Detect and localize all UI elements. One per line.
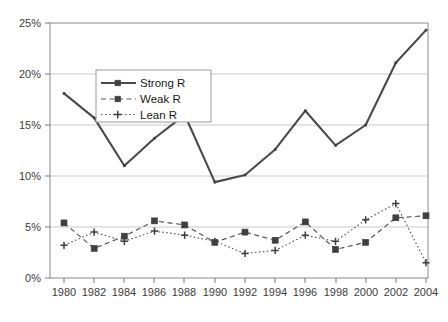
data-point-strong-r-2000 [364, 124, 367, 127]
data-point-strong-r-1990 [214, 181, 217, 184]
data-point-weak-r-1982 [91, 245, 97, 251]
data-point-strong-r-2004 [425, 29, 428, 32]
data-point-strong-r-1996 [304, 109, 307, 112]
x-axis-label-1994: 1994 [263, 286, 287, 298]
legend-marker-weak-r [115, 96, 121, 102]
y-axis-ticks [45, 23, 50, 278]
data-point-weak-r-2004 [423, 213, 429, 219]
line-chart: 0% 5% 10% 15% 20% 25% 1980 1982 1984 198… [0, 0, 448, 322]
data-point-weak-r-1986 [152, 218, 158, 224]
data-point-weak-r-1996 [302, 219, 308, 225]
data-point-strong-r-1986 [153, 137, 156, 140]
chart-legend: Strong R Weak R Lean R [96, 70, 211, 122]
chart-container: 0% 5% 10% 15% 20% 25% 1980 1982 1984 198… [0, 0, 448, 322]
data-point-weak-r-2002 [393, 215, 399, 221]
x-axis-label-1982: 1982 [82, 286, 106, 298]
x-axis-label-2002: 2002 [384, 286, 408, 298]
plot-background [50, 23, 428, 278]
data-point-weak-r-1994 [272, 237, 278, 243]
data-point-weak-r-1980 [61, 220, 67, 226]
data-point-strong-r-1984 [123, 165, 126, 168]
data-point-weak-r-1988 [182, 222, 188, 228]
x-axis-label-1990: 1990 [203, 286, 227, 298]
y-axis-label-5: 5% [25, 221, 41, 233]
x-axis-label-1998: 1998 [324, 286, 348, 298]
x-axis-label-1984: 1984 [112, 286, 136, 298]
data-point-strong-r-1982 [93, 117, 96, 120]
data-point-strong-r-1994 [274, 148, 277, 151]
data-point-strong-r-1980 [63, 92, 66, 95]
data-point-strong-r-2002 [395, 61, 398, 64]
legend-label-lean-r: Lean R [140, 109, 177, 121]
legend-marker-strong-r [115, 80, 121, 86]
data-point-strong-r-1992 [244, 174, 247, 177]
x-axis-ticks [64, 278, 426, 283]
y-axis-label-20: 20% [19, 68, 41, 80]
data-point-weak-r-1998 [333, 246, 339, 252]
data-point-weak-r-2000 [363, 239, 369, 245]
x-axis-label-1992: 1992 [233, 286, 257, 298]
x-axis-label-1980: 1980 [52, 286, 76, 298]
y-axis-label-25: 25% [19, 17, 41, 29]
x-axis-label-2004: 2004 [414, 286, 438, 298]
x-axis-label-2000: 2000 [354, 286, 378, 298]
y-axis-label-10: 10% [19, 170, 41, 182]
x-axis-label-1996: 1996 [293, 286, 317, 298]
data-point-weak-r-1992 [242, 229, 248, 235]
x-axis-label-1986: 1986 [142, 286, 166, 298]
y-axis-label-15: 15% [19, 119, 41, 131]
legend-label-weak-r: Weak R [140, 93, 181, 105]
x-axis-label-1988: 1988 [172, 286, 196, 298]
y-axis-label-0: 0% [25, 272, 41, 284]
legend-label-strong-r: Strong R [140, 77, 185, 89]
data-point-strong-r-1998 [334, 144, 337, 147]
